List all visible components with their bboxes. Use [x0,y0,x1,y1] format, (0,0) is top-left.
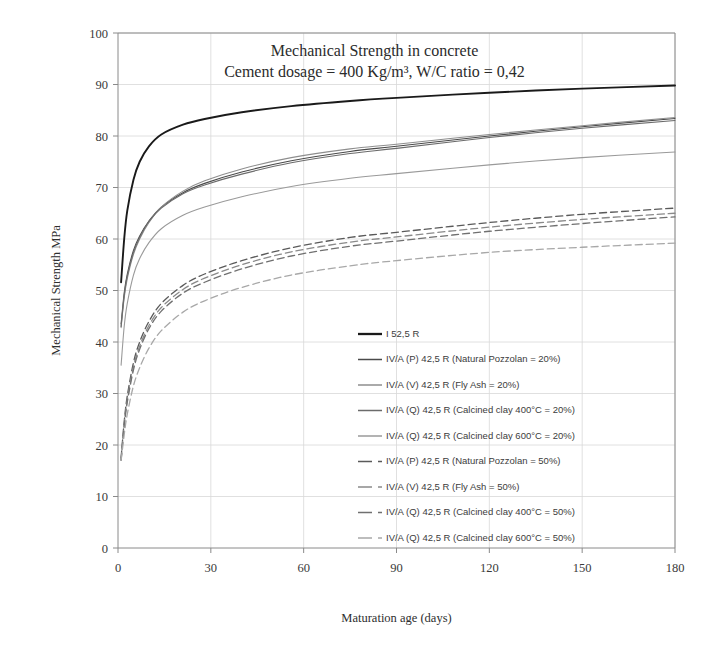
legend-item[interactable]: IV/A (Q) 42,5 R (Calcined clay 600°C = 2… [358,430,575,441]
legend-item[interactable]: IV/A (Q) 42,5 R (Calcined clay 400°C = 2… [358,404,575,415]
legend: I 52,5 RIV/A (P) 42,5 R (Natural Pozzola… [358,328,575,543]
legend-item[interactable]: IV/A (Q) 42,5 R (Calcined clay 400°C = 5… [358,506,575,517]
legend-label: IV/A (P) 42,5 R (Natural Pozzolan = 50%) [386,455,561,466]
legend-item[interactable]: IV/A (P) 42,5 R (Natural Pozzolan = 20%) [358,353,561,364]
legend-label: IV/A (Q) 42,5 R (Calcined clay 400°C = 5… [386,506,575,517]
legend-item[interactable]: IV/A (V) 42,5 R (Fly Ash = 20%) [358,379,519,390]
legend-item[interactable]: IV/A (V) 42,5 R (Fly Ash = 50%) [358,481,519,492]
y-tick-label: 70 [96,181,109,195]
chart-subtitle: Cement dosage = 400 Kg/m³, W/C ratio = 0… [224,63,525,81]
x-tick-label: 120 [480,561,499,575]
x-tick-label: 150 [573,561,592,575]
y-tick-label: 30 [96,387,109,401]
legend-label: IV/A (V) 42,5 R (Fly Ash = 20%) [386,379,519,390]
series-line-1 [121,118,675,323]
x-axis-ticks [118,548,675,553]
y-tick-label: 60 [96,233,109,247]
x-tick-label: 180 [666,561,685,575]
legend-item[interactable]: IV/A (Q) 42,5 R (Calcined clay 600°C = 5… [358,532,575,543]
y-tick-label: 20 [96,439,109,453]
grid-lines [118,33,675,548]
series-line-3 [121,121,675,327]
legend-label: IV/A (Q) 42,5 R (Calcined clay 400°C = 2… [386,404,575,415]
y-tick-label: 80 [96,130,109,144]
y-tick-label: 0 [102,542,108,556]
strength-vs-age-chart: 01020304050607080901000306090120150180Ma… [0,0,727,650]
y-axis-title: Mechanical Strength MPa [49,225,63,356]
legend-item[interactable]: IV/A (P) 42,5 R (Natural Pozzolan = 50%) [358,455,561,466]
y-tick-label: 50 [96,284,109,298]
series-line-7 [121,217,675,461]
x-tick-label: 90 [390,561,403,575]
y-tick-label: 90 [96,78,109,92]
legend-item[interactable]: I 52,5 R [358,328,419,339]
legend-label: I 52,5 R [386,328,419,339]
legend-label: IV/A (V) 42,5 R (Fly Ash = 50%) [386,481,519,492]
x-tick-label: 60 [297,561,310,575]
y-tick-label: 10 [96,490,109,504]
y-axis-ticks [113,33,118,548]
chart-title: Mechanical Strength in concrete [271,42,478,60]
legend-label: IV/A (Q) 42,5 R (Calcined clay 600°C = 5… [386,532,575,543]
y-tick-label: 100 [89,27,108,41]
legend-label: IV/A (P) 42,5 R (Natural Pozzolan = 20%) [386,353,561,364]
legend-label: IV/A (Q) 42,5 R (Calcined clay 600°C = 2… [386,430,575,441]
series-line-8 [121,243,675,460]
x-tick-label: 0 [115,561,121,575]
chart-figure: 01020304050607080901000306090120150180Ma… [0,0,727,650]
x-tick-label: 30 [205,561,218,575]
y-tick-label: 40 [96,336,109,350]
series-line-2 [121,117,675,327]
x-axis-title: Maturation age (days) [341,611,451,625]
